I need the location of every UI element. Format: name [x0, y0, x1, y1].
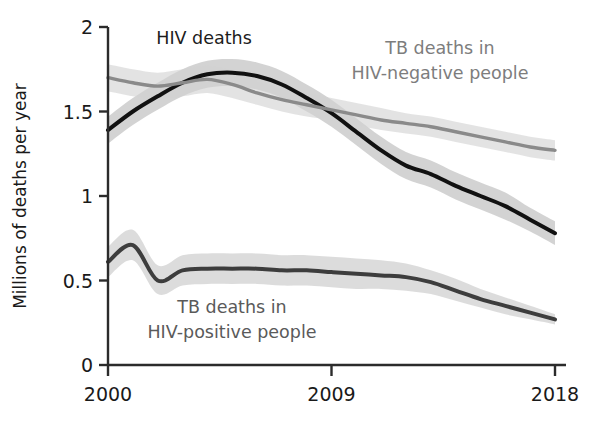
y-tick-label: 1.5 [63, 101, 93, 123]
y-axis-title: Millions of deaths per year [10, 83, 30, 309]
x-tick-label: 2000 [84, 383, 132, 405]
chart-page: 00.511.52200020092018 HIV deathsTB death… [0, 0, 594, 429]
annotation-label-4: HIV-positive people [147, 322, 316, 342]
y-tick-label: 2 [81, 16, 93, 38]
annotation-label-2: HIV-negative people [352, 63, 529, 83]
annotation-label-3: TB deaths in [176, 297, 286, 317]
deaths-per-year-line-chart: 00.511.52200020092018 HIV deathsTB death… [0, 0, 594, 429]
annotation-label-1: TB deaths in [384, 38, 494, 58]
x-tick-label: 2018 [531, 383, 579, 405]
y-tick-label: 0 [81, 354, 93, 376]
annotation-label-0: HIV deaths [156, 28, 252, 48]
y-tick-label: 1 [81, 185, 93, 207]
x-tick-label: 2009 [307, 383, 355, 405]
y-tick-label: 0.5 [63, 270, 93, 292]
